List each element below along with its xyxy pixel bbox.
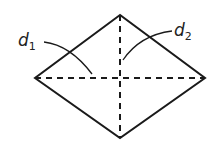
rhombus-diagram: d1 d2: [0, 0, 212, 141]
label-d1: d1: [18, 30, 36, 53]
d1-leader-line: [44, 42, 92, 74]
label-d2: d2: [174, 20, 192, 43]
